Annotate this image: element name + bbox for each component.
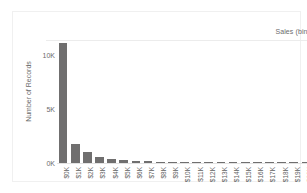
bar-slot bbox=[57, 40, 69, 163]
x-axis-tick-label: $20K bbox=[306, 167, 307, 182]
x-label-slot: $1K bbox=[69, 166, 81, 193]
bar-slot bbox=[130, 40, 142, 163]
bar-slot bbox=[276, 40, 288, 163]
x-label-slot: $5K bbox=[118, 166, 130, 193]
bar[interactable] bbox=[59, 43, 68, 163]
bar-slot bbox=[300, 40, 307, 163]
y-axis-tick-label: 0K bbox=[46, 160, 55, 168]
x-label-slot: $4K bbox=[106, 166, 118, 193]
bar-slot bbox=[154, 40, 166, 163]
y-axis-tick-label: 10K bbox=[43, 52, 55, 60]
bar[interactable] bbox=[71, 144, 80, 163]
x-label-slot: $20K bbox=[300, 166, 307, 193]
bar-series bbox=[57, 40, 307, 163]
bar[interactable] bbox=[83, 152, 92, 163]
bar-slot bbox=[93, 40, 105, 163]
x-label-slot: $16K bbox=[251, 166, 263, 193]
visualization-frame: Sales (bin) Number of Records 0K5K10K $0… bbox=[12, 11, 301, 182]
y-axis-ticks: 0K5K10K bbox=[35, 40, 55, 166]
bar-slot bbox=[81, 40, 93, 163]
x-label-slot: $3K bbox=[93, 166, 105, 193]
bar-slot bbox=[69, 40, 81, 163]
x-label-slot: $9K bbox=[166, 166, 178, 193]
bar-slot bbox=[191, 40, 203, 163]
bar-slot bbox=[203, 40, 215, 163]
bar-slot bbox=[239, 40, 251, 163]
bar-slot bbox=[166, 40, 178, 163]
y-axis-title: Number of Records bbox=[25, 57, 32, 127]
x-label-slot: $7K bbox=[142, 166, 154, 193]
x-label-slot: $13K bbox=[215, 166, 227, 193]
x-label-slot: $17K bbox=[263, 166, 275, 193]
bar-slot bbox=[118, 40, 130, 163]
x-label-slot: $0K bbox=[57, 166, 69, 193]
x-axis-ticks: $0K$1K$2K$3K$4K$5K$6K$7K$8K$9K$10K$11K$1… bbox=[57, 166, 307, 193]
bar-slot bbox=[142, 40, 154, 163]
bar-slot bbox=[227, 40, 239, 163]
chart-screenshot: Sales (bin) Number of Records 0K5K10K $0… bbox=[0, 0, 307, 193]
clipped-header-text bbox=[0, 0, 307, 6]
bar-slot bbox=[288, 40, 300, 163]
x-label-slot: $15K bbox=[239, 166, 251, 193]
bar-slot bbox=[263, 40, 275, 163]
x-label-slot: $12K bbox=[203, 166, 215, 193]
plot-area bbox=[57, 40, 307, 164]
y-axis-tick-label: 5K bbox=[46, 106, 55, 114]
x-label-slot: $6K bbox=[130, 166, 142, 193]
x-axis-title: Sales (bin) bbox=[275, 28, 307, 35]
bar-slot bbox=[178, 40, 190, 163]
bar-slot bbox=[106, 40, 118, 163]
x-label-slot: $10K bbox=[178, 166, 190, 193]
x-label-slot: $19K bbox=[288, 166, 300, 193]
x-label-slot: $8K bbox=[154, 166, 166, 193]
x-label-slot: $2K bbox=[81, 166, 93, 193]
bar-slot bbox=[215, 40, 227, 163]
x-label-slot: $11K bbox=[191, 166, 203, 193]
x-label-slot: $14K bbox=[227, 166, 239, 193]
bar-slot bbox=[251, 40, 263, 163]
x-label-slot: $18K bbox=[276, 166, 288, 193]
x-axis-line bbox=[57, 163, 307, 164]
